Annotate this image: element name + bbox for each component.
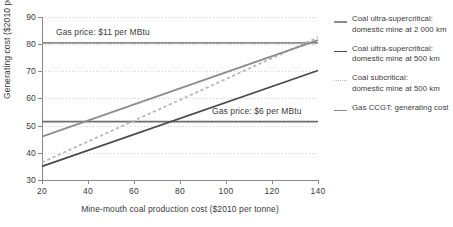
x-tick-140 [318, 180, 319, 184]
chart-figure: Generating cost ($2010 per MWh) Mine-mou… [0, 0, 453, 227]
legend-label-gas-ccgt: Gas CCGT: generating cost [352, 103, 449, 114]
legend-swatch-solid-gray-icon [334, 106, 347, 115]
x-tick-label-100: 100 [219, 186, 234, 196]
y-tick-label-80: 80 [26, 39, 36, 49]
y-tick-label-90: 90 [26, 12, 36, 22]
x-tick-20 [42, 180, 43, 184]
legend-item-gas-ccgt: Gas CCGT: generating cost [334, 103, 453, 115]
x-tick-label-80: 80 [175, 186, 185, 196]
x-tick-label-140: 140 [311, 186, 326, 196]
y-tick-label-70: 70 [26, 66, 36, 76]
legend-label-line1: Coal ultra-supercritical: [352, 14, 433, 23]
x-tick-60 [134, 180, 135, 184]
x-tick-80 [180, 180, 181, 184]
legend-label-line1: Gas CCGT: generating cost [352, 103, 449, 112]
legend-swatch-solid-dark-icon [334, 47, 347, 56]
x-tick-100 [226, 180, 227, 184]
y-tick-label-30: 30 [26, 175, 36, 185]
y-tick-label-40: 40 [26, 148, 36, 158]
y-tick-label-50: 50 [26, 121, 36, 131]
legend-item-coal-subcritical-500km: Coal subcritical: domestic mine at 500 k… [334, 73, 453, 95]
legend-label-coal-usc-500km: Coal ultra-supercritical: domestic mine … [352, 44, 440, 66]
legend-swatch-solid-gray-icon [334, 17, 347, 26]
legend-swatch-dotted-gray-icon [334, 76, 347, 85]
x-tick-label-120: 120 [265, 186, 280, 196]
series-canvas [42, 17, 318, 180]
x-tick-label-40: 40 [83, 186, 93, 196]
y-tick-label-60: 60 [26, 93, 36, 103]
legend-label-coal-usc-2000km: Coal ultra-supercritical: domestic mine … [352, 14, 446, 36]
legend-item-coal-usc-500km: Coal ultra-supercritical: domestic mine … [334, 44, 453, 66]
y-axis-title: Generating cost ($2010 per MWh) [2, 0, 12, 99]
x-tick-label-60: 60 [129, 186, 139, 196]
legend-label-line1: Coal ultra-supercritical: [352, 44, 433, 53]
legend-label-line2: domestic mine at 500 km [352, 84, 440, 93]
series-coal-usc-500km [42, 71, 318, 167]
chart-legend: Coal ultra-supercritical: domestic mine … [334, 14, 453, 123]
series-coal-subcritical-500km [42, 37, 318, 162]
legend-item-coal-usc-2000km: Coal ultra-supercritical: domestic mine … [334, 14, 453, 36]
legend-label-line1: Coal subcritical: [352, 73, 408, 82]
annotation-gas-price-6: Gas price: $6 per MBtu [212, 106, 302, 116]
x-axis-title: Mine-mouth coal production cost ($2010 p… [81, 204, 279, 214]
legend-label-coal-subcritical-500km: Coal subcritical: domestic mine at 500 k… [352, 73, 440, 95]
x-tick-40 [88, 180, 89, 184]
x-tick-label-20: 20 [37, 186, 47, 196]
x-tick-120 [272, 180, 273, 184]
plot-area: 90 80 70 60 50 40 30 20 40 60 80 100 120… [42, 17, 318, 180]
legend-label-line2: domestic mine at 500 km [352, 54, 440, 63]
legend-label-line2: domestic mine at 2 000 km [352, 25, 446, 34]
annotation-gas-price-11: Gas price: $11 per MBtu [56, 27, 150, 37]
